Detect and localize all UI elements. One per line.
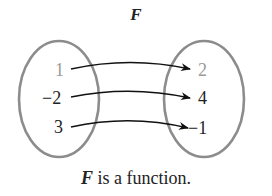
domain-value-3: 3 [54, 118, 63, 136]
domain-value-2: −2 [42, 89, 61, 107]
domain-value-1: 1 [55, 61, 64, 79]
mapping-arrow-3 [71, 121, 188, 128]
caption-text: is a function. [93, 168, 191, 188]
diagram-canvas [0, 0, 272, 196]
range-value-3: −1 [188, 119, 207, 137]
range-value-1: 2 [198, 61, 207, 79]
caption-function-name: F [81, 168, 93, 188]
mapping-arrow-2 [71, 91, 190, 98]
diagram-caption: F is a function. [0, 168, 272, 189]
range-value-2: 4 [198, 89, 207, 107]
